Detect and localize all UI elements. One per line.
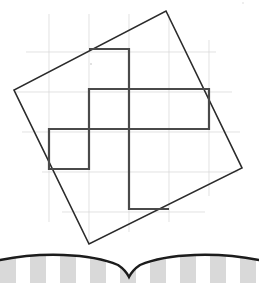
scan-speck-icon <box>242 2 243 3</box>
fold-stripe <box>30 255 46 283</box>
fold-stripes <box>0 255 256 283</box>
pinwheel-outline <box>49 49 209 209</box>
fold-stripe <box>210 255 226 283</box>
fold-stripe <box>180 255 196 283</box>
geometry-figure <box>0 0 259 283</box>
scanned-page <box>0 0 259 283</box>
book-fold-strip <box>0 243 259 283</box>
fold-stripe <box>60 255 76 283</box>
scan-speck-icon <box>90 63 92 65</box>
